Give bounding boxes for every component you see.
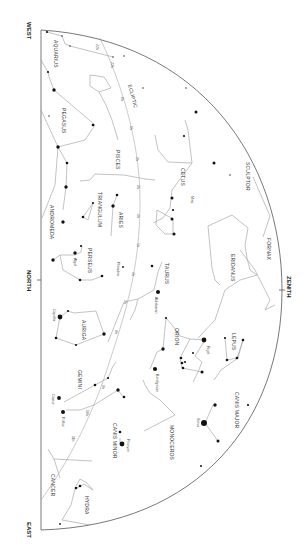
label-pegasus: PEGASUS: [61, 108, 67, 134]
label-sirius: Sirius: [196, 418, 200, 427]
ecliptic-mark: 2h: [135, 157, 139, 161]
ecliptic-mark: 0h: [120, 97, 124, 101]
ecliptic-mark: 11h: [71, 436, 75, 442]
label-aldebaran: Aldebaran: [154, 297, 158, 313]
label-sculptor: SCULPTOR: [245, 162, 251, 191]
pisces-lines: [99, 92, 118, 140]
label-algol: Algol: [73, 258, 77, 266]
ecliptic-mark: 3h: [136, 185, 140, 189]
orion-lines: [166, 318, 205, 382]
label-orion: ORION: [174, 328, 180, 346]
label-pisces: PISCES: [115, 150, 121, 170]
lepus-lines: [214, 338, 243, 380]
label-canis-major: CANIS MAJOR: [234, 392, 240, 429]
ecliptic-mark: 1h: [129, 126, 133, 130]
eridanus-lines-2: [208, 226, 220, 285]
auriga-lines: [56, 311, 104, 345]
pegasus-arm: [41, 60, 54, 90]
gemini-lines-2: [66, 390, 124, 410]
label-cancer: CANCER: [50, 474, 56, 497]
constellation-labels: AQUARIUS PEGASUS PISCES CETUS SCULPTOR F…: [49, 40, 272, 515]
perseus-lines-2: [60, 255, 102, 280]
ecliptic-label: ECLIPTIC: [127, 84, 139, 109]
label-rigel: Rigel: [206, 346, 210, 354]
andromeda-lines: [58, 147, 67, 210]
cetus-tail: [156, 210, 173, 234]
label-canis-minor: CANIS MINOR: [112, 423, 118, 459]
label-pleiades: Pleiades: [116, 262, 120, 276]
label-taurus: TAURUS: [164, 263, 170, 285]
label-betelgeuse: Betelgeuse: [155, 374, 159, 392]
label-capella: Capella: [52, 309, 56, 321]
zenith-label: ZENITH: [286, 276, 292, 298]
label-hydra: HYDRA: [84, 496, 90, 515]
label-procyon: Procyon: [126, 439, 130, 452]
horizon: [37, 30, 285, 530]
ecliptic-mark: 6h: [131, 272, 135, 276]
label-castor: Castor: [51, 394, 55, 405]
label-pollux: Pollux: [61, 417, 65, 427]
star-labels: Mira Algol Pleiades Aldebaran Capella Ri…: [51, 196, 210, 452]
west-label: WEST: [26, 22, 32, 40]
label-fornax: FORNAX: [266, 238, 272, 261]
orion-lines-2: [150, 318, 166, 369]
label-cetus: CETUS: [180, 168, 186, 186]
triangulum-lines: [83, 203, 93, 220]
label-triangulum: TRIANGULUM: [97, 192, 103, 227]
label-eridanus: ERIDANUS: [230, 254, 236, 282]
ecliptic-mark: 5h: [136, 243, 140, 247]
star-chart: WEST NORTH EAST ZENITH ECLIPTIC 22h 23h …: [0, 0, 308, 550]
label-mira: Mira: [190, 196, 194, 203]
pisces-circlet: [90, 75, 111, 92]
eridanus-lines: [198, 215, 257, 338]
label-gemini: GEMINI: [77, 370, 83, 389]
east-label: EAST: [26, 522, 32, 538]
pegasus-lines: [41, 90, 95, 147]
pisces-lower: [80, 174, 155, 181]
ecliptic-mark: 4h: [136, 214, 140, 218]
taurus-horns: [108, 299, 138, 342]
ecliptic-mark: 23h: [110, 62, 114, 68]
ecliptic-mark: 9h: [101, 385, 105, 389]
label-andromeda: ANDROMEDA: [49, 205, 55, 240]
label-aquarius: AQUARIUS: [53, 40, 59, 68]
cetus-head: [155, 120, 192, 163]
horizon-arc: [41, 30, 282, 530]
ecliptic-mark: 8h: [114, 330, 118, 334]
constellation-lines: [41, 32, 275, 525]
label-monoceros: MONOCEROS: [169, 425, 175, 461]
aries-lines: [111, 195, 117, 236]
label-lepus: LEPUS: [231, 333, 237, 351]
label-perseus: PERSEUS: [87, 248, 93, 274]
north-label: NORTH: [26, 270, 32, 291]
label-auriga: AURIGA: [81, 320, 87, 341]
label-aries: ARIES: [118, 212, 124, 228]
ecliptic-mark: 10h: [85, 410, 89, 416]
ecliptic-mark: 22h: [95, 44, 99, 50]
sculptor-lines: [253, 177, 270, 237]
